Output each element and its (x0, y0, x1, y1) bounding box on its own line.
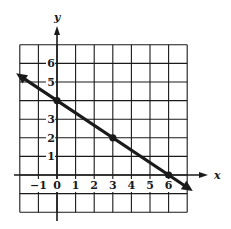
data-point (165, 171, 172, 178)
x-tick-label: −1 (30, 179, 47, 192)
tick-labels: −1012345612356 (30, 57, 174, 192)
x-tick-label: 3 (109, 179, 117, 192)
x-tick-label: 6 (165, 179, 173, 192)
x-tick-label: 1 (72, 179, 80, 192)
y-axis-arrow-icon (54, 26, 60, 35)
data-point (53, 97, 60, 104)
x-axis-label: x (213, 169, 221, 182)
x-tick-label: 2 (90, 179, 98, 192)
x-tick-label: 0 (53, 179, 61, 192)
y-tick-label: 3 (47, 113, 55, 126)
y-tick-label: 6 (47, 57, 55, 70)
x-tick-label: 5 (146, 179, 154, 192)
x-axis-arrow-icon (199, 172, 208, 178)
y-axis-label: y (53, 11, 62, 24)
data-point (109, 134, 116, 141)
coordinate-plane: −1012345612356 x y (0, 0, 231, 229)
y-tick-label: 2 (47, 132, 55, 145)
x-tick-label: 4 (128, 179, 136, 192)
y-tick-label: 5 (47, 76, 55, 89)
data-line (16, 73, 193, 191)
y-tick-label: 1 (47, 150, 55, 163)
